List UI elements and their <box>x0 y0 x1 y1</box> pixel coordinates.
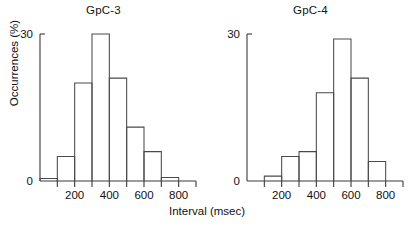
panel-gpc-3: GpC-3 Occurrences (%) 200400600800300 <box>0 0 207 229</box>
histogram-bar <box>334 39 351 181</box>
histogram-bar <box>316 93 333 181</box>
svg-text:400: 400 <box>307 189 326 201</box>
svg-text:30: 30 <box>20 28 33 40</box>
histogram-bar <box>127 127 144 181</box>
histogram-bar <box>57 157 74 182</box>
svg-text:600: 600 <box>134 189 153 201</box>
histogram-bar <box>368 161 385 181</box>
histogram-bar <box>144 152 161 181</box>
svg-text:30: 30 <box>227 28 240 40</box>
plot-area-gpc-4: 200400600800300 <box>207 0 414 229</box>
svg-text:800: 800 <box>376 189 395 201</box>
svg-text:200: 200 <box>272 189 291 201</box>
histogram-bar <box>299 152 316 181</box>
svg-text:0: 0 <box>27 175 33 187</box>
panel-gpc-4: GpC-4 200400600800300 <box>207 0 414 229</box>
histogram-bar <box>92 34 109 181</box>
svg-text:0: 0 <box>234 175 240 187</box>
histogram-bar <box>282 157 299 182</box>
plot-area-gpc-3: 200400600800300 <box>0 0 207 229</box>
histogram-bar <box>264 176 281 181</box>
svg-text:600: 600 <box>341 189 360 201</box>
x-axis-title: Interval (msec) <box>0 205 414 217</box>
histogram-figure: GpC-3 Occurrences (%) 200400600800300 Gp… <box>0 0 414 229</box>
svg-text:800: 800 <box>169 189 188 201</box>
histogram-bar <box>75 83 92 181</box>
svg-text:400: 400 <box>100 189 119 201</box>
histogram-bar <box>109 78 126 181</box>
svg-text:200: 200 <box>65 189 84 201</box>
histogram-bar <box>351 78 368 181</box>
